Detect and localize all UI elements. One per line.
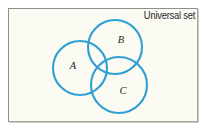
set-label-c: C bbox=[119, 85, 127, 96]
set-label-b: B bbox=[118, 34, 125, 45]
set-label-a: A bbox=[69, 60, 77, 71]
venn-diagram-figure: A B C Universal set bbox=[0, 0, 207, 131]
universal-set-caption: Universal set bbox=[144, 10, 195, 21]
